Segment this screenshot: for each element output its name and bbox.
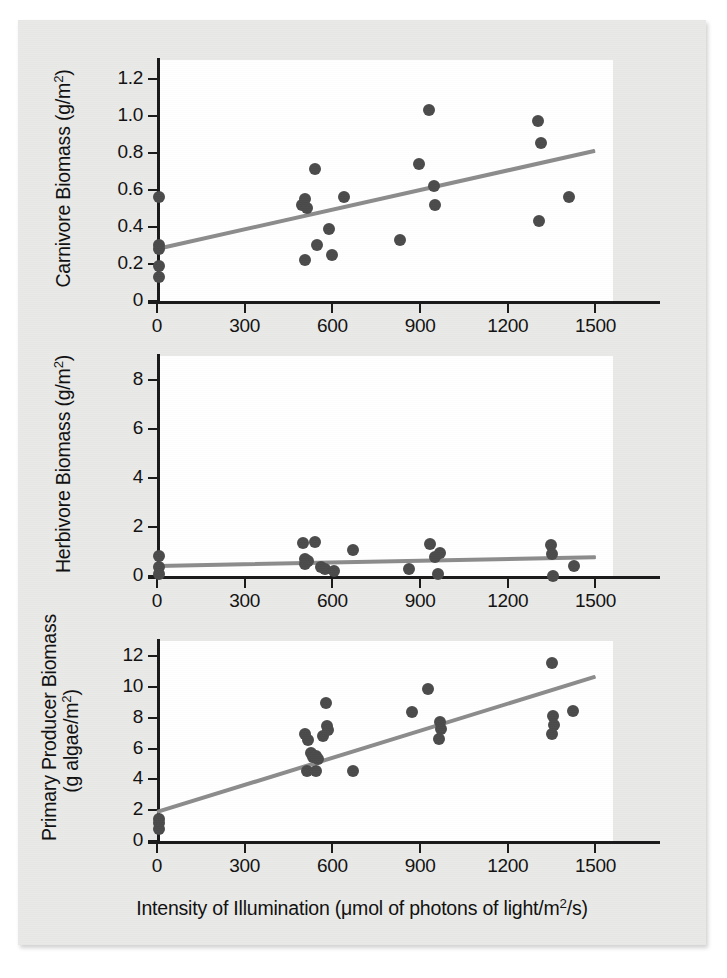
data-point xyxy=(422,683,434,695)
data-point xyxy=(428,180,440,192)
x-axis-tick-label: 600 xyxy=(292,315,372,337)
x-axis-line xyxy=(148,576,660,579)
data-point xyxy=(299,254,311,266)
x-axis-tick xyxy=(156,579,158,588)
data-point xyxy=(532,115,544,127)
x-axis-tick xyxy=(594,304,596,313)
y-axis-tick xyxy=(148,300,157,302)
y-axis-tick-label: 2 xyxy=(91,798,143,820)
data-point xyxy=(347,765,359,777)
y-axis-line xyxy=(157,354,160,576)
data-point xyxy=(326,249,338,261)
x-axis-tick xyxy=(331,844,333,853)
data-point xyxy=(153,568,165,580)
data-point xyxy=(547,570,559,582)
scanned-figure-page: Carnivore Biomass (g/m2) 00.20.40.60.81.… xyxy=(18,20,706,945)
x-axis-tick xyxy=(594,579,596,588)
x-axis-line xyxy=(148,841,660,844)
data-point xyxy=(394,234,406,246)
data-point xyxy=(433,733,445,745)
data-point xyxy=(153,260,165,272)
data-point xyxy=(403,563,415,575)
x-axis-tick xyxy=(507,579,509,588)
x-axis-tick-label: 0 xyxy=(117,590,197,612)
y-axis-tick xyxy=(148,189,157,191)
data-point xyxy=(535,137,547,149)
data-point xyxy=(153,191,165,203)
y-axis-tick xyxy=(148,78,157,80)
x-axis-tick xyxy=(244,579,246,588)
x-axis-tick-label: 1500 xyxy=(555,315,635,337)
x-axis-tick xyxy=(594,844,596,853)
x-axis-tick xyxy=(244,304,246,313)
data-point xyxy=(310,765,322,777)
data-point xyxy=(309,163,321,175)
x-axis-tick xyxy=(331,304,333,313)
y-axis-tick xyxy=(148,655,157,657)
plot-area-primary-producer xyxy=(157,641,613,841)
y-axis-tick xyxy=(148,428,157,430)
data-point xyxy=(323,223,335,235)
data-point xyxy=(301,202,313,214)
y-axis-tick xyxy=(148,115,157,117)
y-axis-tick-label: 4 xyxy=(91,466,143,488)
data-point xyxy=(320,697,332,709)
y-axis-tick-label: 0.6 xyxy=(91,178,143,200)
y-axis-title-primary-producer: Primary Producer Biomass(g algae/m2) xyxy=(39,641,83,841)
data-point xyxy=(299,558,311,570)
data-point xyxy=(328,565,340,577)
plot-area-herbivore xyxy=(157,356,613,576)
y-axis-tick xyxy=(148,226,157,228)
data-point xyxy=(153,271,165,283)
x-axis-tick-label: 900 xyxy=(380,315,460,337)
y-axis-tick xyxy=(148,477,157,479)
y-axis-tick-label: 0.8 xyxy=(91,141,143,163)
x-axis-tick-label: 1200 xyxy=(468,315,548,337)
x-axis-tick xyxy=(331,579,333,588)
y-axis-title-herbivore: Herbivore Biomass (g/m2) xyxy=(53,354,75,574)
y-axis-tick-label: 0.2 xyxy=(91,252,143,274)
data-point xyxy=(568,560,580,572)
x-axis-tick-label: 300 xyxy=(205,590,285,612)
x-axis-tick xyxy=(419,579,421,588)
trend-line xyxy=(156,674,596,813)
data-point xyxy=(546,728,558,740)
data-point xyxy=(153,243,165,255)
y-axis-tick-label: 2 xyxy=(91,515,143,537)
x-axis-tick-label: 300 xyxy=(205,315,285,337)
y-axis-tick-label: 1.2 xyxy=(91,67,143,89)
y-axis-tick xyxy=(148,748,157,750)
y-axis-tick xyxy=(148,686,157,688)
data-point xyxy=(429,199,441,211)
x-axis-tick xyxy=(419,844,421,853)
data-point xyxy=(297,537,309,549)
data-point xyxy=(322,724,334,736)
y-axis-tick-label: 0 xyxy=(91,564,143,586)
y-axis-tick xyxy=(148,152,157,154)
y-axis-tick-label: 12 xyxy=(91,644,143,666)
data-point xyxy=(533,215,545,227)
data-point xyxy=(423,104,435,116)
x-axis-tick-label: 0 xyxy=(117,315,197,337)
data-point xyxy=(563,191,575,203)
trend-line xyxy=(157,555,596,568)
y-axis-tick xyxy=(148,778,157,780)
x-axis-tick xyxy=(507,304,509,313)
y-axis-tick xyxy=(148,379,157,381)
y-axis-tick-label: 8 xyxy=(91,706,143,728)
x-axis-tick xyxy=(156,844,158,853)
y-axis-title-carnivore: Carnivore Biomass (g/m2) xyxy=(53,58,75,299)
data-point xyxy=(312,753,324,765)
x-axis-title: Intensity of Illumination (μmol of photo… xyxy=(18,897,706,920)
y-axis-tick-label: 6 xyxy=(91,417,143,439)
data-point xyxy=(311,239,323,251)
y-axis-tick xyxy=(148,717,157,719)
trend-line xyxy=(157,149,596,251)
data-point xyxy=(406,706,418,718)
data-point xyxy=(302,734,314,746)
y-axis-tick-label: 8 xyxy=(91,368,143,390)
x-axis-tick-label: 1500 xyxy=(555,855,635,877)
x-axis-tick-label: 600 xyxy=(292,590,372,612)
y-axis-tick xyxy=(148,840,157,842)
x-axis-tick xyxy=(419,304,421,313)
